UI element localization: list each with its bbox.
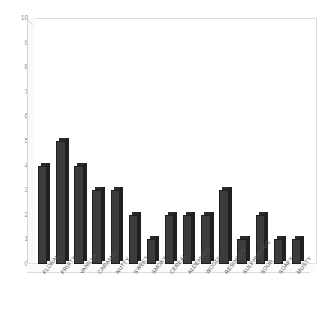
bar-side-face <box>138 212 141 261</box>
bar-side-face <box>174 212 177 261</box>
bar-side-face <box>283 236 286 261</box>
bar-front-face <box>38 166 47 264</box>
y-tick-label: 7 <box>2 89 28 96</box>
bar[interactable] <box>129 215 138 264</box>
y-tick-label: 3 <box>2 187 28 194</box>
bar-side-face <box>102 187 105 261</box>
bar[interactable] <box>38 166 47 264</box>
bar-side-face <box>211 212 214 261</box>
y-tick-label: 9 <box>2 39 28 46</box>
bar-side-face <box>301 236 304 261</box>
bar[interactable] <box>219 190 228 264</box>
y-tick-label: 0 <box>2 261 28 268</box>
bar-side-face <box>192 212 195 261</box>
bar-front-face <box>74 166 83 264</box>
bar-side-face <box>66 138 69 261</box>
bar-front-face <box>219 190 228 264</box>
bar-side-face <box>156 236 159 261</box>
y-tick-label: 2 <box>2 212 28 219</box>
y-tick-label: 10 <box>2 15 28 22</box>
bar-side-face <box>47 163 50 261</box>
y-tick-label: 6 <box>2 113 28 120</box>
bar-side-face <box>120 187 123 261</box>
bars-layer <box>27 18 317 273</box>
bar-side-face <box>84 163 87 261</box>
y-tick-label: 4 <box>2 162 28 169</box>
bar[interactable] <box>74 166 83 264</box>
bar-side-face <box>265 212 268 261</box>
y-tick-label: 8 <box>2 64 28 71</box>
bar-side-face <box>229 187 232 261</box>
bar-front-face <box>274 239 283 264</box>
y-tick-label: 5 <box>2 138 28 145</box>
x-axis-labels: FLORALFRUITYVANILLACARAMELNUTTYSWEETSMOK… <box>0 272 325 322</box>
bar[interactable] <box>56 141 65 264</box>
bar-side-face <box>247 236 250 261</box>
plot-area <box>27 18 317 273</box>
bar[interactable] <box>274 239 283 264</box>
bar-front-face <box>129 215 138 264</box>
y-tick-label: 1 <box>2 236 28 243</box>
bar-front-face <box>56 141 65 264</box>
bar-chart: 012345678910 FLORALFRUITYVANILLACARAMELN… <box>0 0 325 322</box>
